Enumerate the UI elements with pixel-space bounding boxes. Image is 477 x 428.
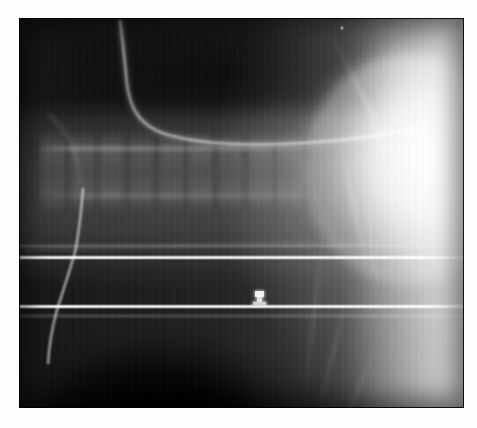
collimation-line-faint-upper (19, 244, 464, 248)
collimation-line-faint-lower (19, 314, 464, 318)
plate-edge-outline (19, 18, 464, 408)
bone-streak (365, 191, 380, 306)
rib-scapula-streaks-layer (19, 18, 464, 408)
vertebral-body (218, 131, 243, 213)
right-soft-tissue-slab-layer (348, 18, 464, 408)
vertebral-body (188, 131, 213, 213)
bone-streak (334, 347, 377, 408)
bone-streak (400, 112, 450, 189)
bone-streak (337, 137, 372, 286)
radiograph-plate (19, 18, 464, 408)
exposure-field-layer (19, 18, 464, 408)
vascular-line-path (48, 188, 83, 364)
diaphragm-dome-secondary-layer (19, 338, 250, 408)
collimation-line-lower (19, 304, 464, 309)
radiograph-image-viewer (0, 0, 477, 428)
vertebral-body (248, 131, 273, 213)
diaphragm-dome-layer (28, 330, 348, 408)
shoulder-cortical-rim (304, 57, 464, 283)
vertebral-column-layer (37, 131, 366, 213)
film-grain-overlay (19, 18, 464, 408)
marker-base (253, 302, 266, 305)
vertebral-body (277, 131, 302, 213)
air-column-layer (55, 26, 384, 112)
radio-opaque-tube-layer (19, 18, 464, 408)
vertebral-endplate-line-upper (37, 147, 357, 150)
vertebral-body (159, 131, 184, 213)
vertebral-endplate-line-lower (46, 194, 358, 197)
collimation-line-upper (19, 255, 464, 260)
vertebral-body (40, 131, 65, 213)
vertebral-body (129, 131, 154, 213)
vertical-banding-overlay (19, 18, 464, 408)
bone-streak (356, 81, 401, 199)
vignette-overlay (19, 18, 464, 408)
vertebral-body (99, 131, 124, 213)
bone-streak (329, 34, 403, 169)
bone-streak (315, 292, 350, 408)
vertebral-body (70, 131, 95, 213)
bright-speck-icon (341, 27, 343, 29)
